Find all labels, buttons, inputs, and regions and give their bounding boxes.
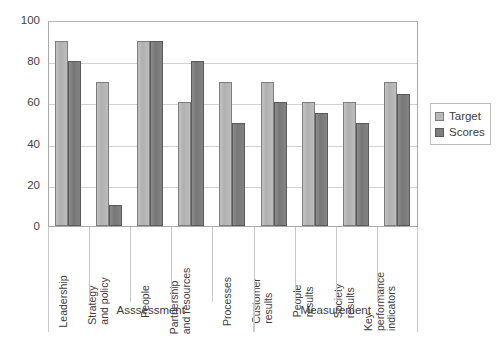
legend-item-scores: Scores — [435, 124, 485, 140]
y-axis: 100806040200 — [0, 14, 44, 234]
legend-swatch-scores-icon — [435, 128, 444, 137]
category-label-cell: Processes — [212, 227, 253, 302]
bar-group — [172, 22, 213, 226]
bar-target — [55, 41, 68, 226]
bar-group — [213, 22, 254, 226]
y-axis-tick-label: 40 — [27, 139, 40, 150]
category-divider — [336, 227, 337, 302]
bar-scores — [356, 123, 369, 226]
section-label-cell: Measurement — [254, 302, 418, 332]
bar-target — [261, 82, 274, 226]
section-axis-labels: AsssessmentMeasurement — [48, 302, 418, 332]
category-divider — [295, 227, 296, 302]
category-label-cell: Keyperformanceindicators — [377, 227, 418, 302]
bar-scores — [397, 94, 410, 226]
category-label-cell: People — [130, 227, 171, 302]
bar-group — [337, 22, 378, 226]
legend-item-target: Target — [435, 108, 485, 124]
bar-scores — [150, 41, 163, 226]
bar-target — [178, 102, 191, 226]
bar-target — [96, 82, 109, 226]
section-label-cell: Asssessment — [48, 302, 254, 332]
category-divider — [417, 227, 418, 302]
section-label: Measurement — [254, 304, 418, 316]
bar-chart: 100806040200 LeadershipStrategyand polic… — [0, 0, 503, 340]
category-axis-labels: LeadershipStrategyand policyPeoplePartne… — [48, 227, 418, 302]
section-divider — [254, 302, 255, 332]
category-divider — [130, 227, 131, 302]
y-axis-tick-label: 60 — [27, 97, 40, 108]
bar-target — [343, 102, 356, 226]
bar-target — [384, 82, 397, 226]
category-label-cell: Strategyand policy — [89, 227, 130, 302]
category-divider — [212, 227, 213, 302]
bar-target — [219, 82, 232, 226]
bars-layer — [49, 22, 417, 226]
category-divider — [254, 227, 255, 302]
bar-scores — [274, 102, 287, 226]
category-label-cell: Peopleresults — [295, 227, 336, 302]
section-divider — [48, 302, 49, 332]
category-label-cell: Customerresults — [254, 227, 295, 302]
bar-group — [90, 22, 131, 226]
section-label: Asssessment — [48, 304, 254, 316]
bar-group — [296, 22, 337, 226]
bar-target — [137, 41, 150, 226]
bar-group — [131, 22, 172, 226]
y-axis-tick-label: 20 — [27, 180, 40, 191]
legend-label-scores: Scores — [449, 126, 485, 138]
category-label-cell: Leadership — [48, 227, 89, 302]
category-divider — [89, 227, 90, 302]
bar-scores — [191, 61, 204, 226]
bar-group — [255, 22, 296, 226]
category-divider — [377, 227, 378, 302]
bar-group — [49, 22, 90, 226]
y-axis-tick-label: 80 — [27, 56, 40, 67]
section-divider — [417, 302, 418, 332]
bar-scores — [315, 113, 328, 226]
y-axis-tick-label: 100 — [21, 15, 40, 26]
legend-swatch-target-icon — [435, 112, 444, 121]
bar-group — [378, 22, 419, 226]
legend: Target Scores — [430, 103, 491, 145]
bar-scores — [232, 123, 245, 226]
category-divider — [48, 227, 49, 302]
plot-area — [48, 21, 418, 227]
category-divider — [171, 227, 172, 302]
bar-scores — [109, 205, 122, 226]
legend-label-target: Target — [449, 110, 481, 122]
y-axis-tick-label: 0 — [34, 221, 40, 232]
bar-scores — [68, 61, 81, 226]
bar-target — [302, 102, 315, 226]
category-label-cell: Partnershipand resources — [171, 227, 212, 302]
